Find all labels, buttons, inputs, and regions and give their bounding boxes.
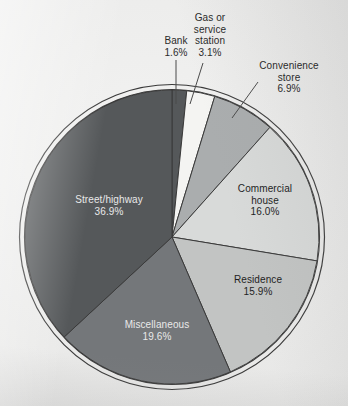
- slice-label-street-pct: 36.9%: [56, 206, 162, 218]
- slice-label-convenience-line1: Convenience: [259, 60, 318, 71]
- slice-label-gas: Gas or service station 3.1%: [182, 12, 238, 58]
- pie-chart-figure: Bank 1.6% Gas or service station 3.1% Co…: [0, 0, 348, 406]
- slice-label-street-line1: Street/highway: [75, 194, 143, 205]
- slice-label-commercial-pct: 16.0%: [219, 206, 311, 218]
- slice-label-gas-pct: 3.1%: [182, 47, 238, 59]
- slice-label-commercial: Commercial house 16.0%: [219, 183, 311, 218]
- slice-label-gas-line1: Gas or: [195, 12, 226, 23]
- slice-label-street: Street/highway 36.9%: [56, 194, 162, 217]
- slice-label-miscellaneous-line1: Miscellaneous: [125, 319, 190, 330]
- slice-label-residence-line1: Residence: [234, 274, 282, 285]
- slice-label-commercial-line1: Commercial: [238, 183, 292, 194]
- slice-label-residence: Residence 15.9%: [215, 274, 301, 297]
- slice-label-commercial-line2: house: [219, 195, 311, 207]
- slice-label-miscellaneous: Miscellaneous 19.6%: [104, 319, 210, 342]
- slice-label-residence-pct: 15.9%: [215, 286, 301, 298]
- slice-label-convenience-pct: 6.9%: [240, 83, 338, 95]
- slice-label-convenience: Convenience store 6.9%: [240, 60, 338, 95]
- slice-label-miscellaneous-pct: 19.6%: [104, 331, 210, 343]
- slice-label-gas-line2: service: [182, 24, 238, 36]
- slice-label-convenience-line2: store: [240, 72, 338, 84]
- slice-label-gas-line3: station: [182, 35, 238, 47]
